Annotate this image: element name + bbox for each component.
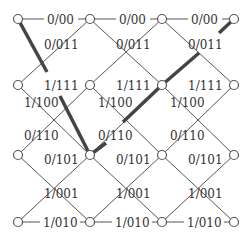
label-1-010: 1/010 (115, 216, 150, 230)
label-1-010: 1/010 (43, 216, 78, 230)
label-1-001: 1/001 (44, 187, 79, 201)
label-0-110: 0/110 (170, 129, 205, 143)
label-1-100: 1/100 (98, 96, 133, 110)
label-0-101: 0/101 (116, 153, 151, 167)
label-1-111: 1/111 (116, 79, 151, 93)
label-1-111: 1/111 (188, 79, 223, 93)
label-0-011: 0/011 (44, 38, 79, 52)
label-1-100: 1/100 (170, 96, 205, 110)
label-1-100: 1/100 (24, 96, 59, 110)
label-0-110: 0/110 (98, 129, 133, 143)
label-0-011: 0/011 (116, 38, 151, 52)
label-0-00: 0/00 (119, 13, 146, 27)
trellis-diagram: 0/00 0/011 1/111 1/100 0/110 0/101 1/001… (0, 0, 251, 241)
label-1-001: 1/001 (116, 187, 151, 201)
label-0-110: 0/110 (24, 129, 59, 143)
label-0-101: 0/101 (44, 153, 79, 167)
label-0-101: 0/101 (188, 153, 223, 167)
label-0-00: 0/00 (191, 13, 218, 27)
label-1-111: 1/111 (44, 79, 79, 93)
label-0-00: 0/00 (47, 13, 74, 27)
trellis-svg: 0/00 0/011 1/111 1/100 0/110 0/101 1/001… (0, 0, 251, 241)
label-0-011: 0/011 (188, 38, 223, 52)
label-1-001: 1/001 (188, 187, 223, 201)
label-1-010: 1/010 (187, 216, 222, 230)
